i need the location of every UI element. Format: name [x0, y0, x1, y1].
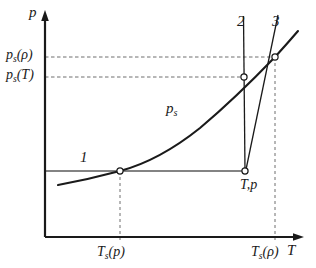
y-axis-arrow-icon — [41, 10, 49, 21]
point-marker-1 — [117, 168, 123, 174]
x-tick-label-Ts-p: Ts(p) — [97, 245, 125, 259]
point-marker-3 — [272, 54, 278, 60]
point-label-1: 1 — [80, 150, 88, 165]
line-label-2: 2 — [237, 14, 245, 29]
point-marker-state-Tp — [242, 168, 248, 174]
x-axis-arrow-icon — [293, 233, 304, 241]
diagram-canvas — [0, 0, 316, 268]
x-axis-label: T — [287, 243, 295, 258]
phase-diagram-figure: p T ps(ρ) ps(T) Ts(p) Ts(ρ) ps 1 2 3 T,p — [0, 0, 316, 268]
y-tick-label-ps-rho: ps(ρ) — [6, 48, 33, 62]
saturation-curve — [58, 31, 298, 185]
y-axis-label: p — [29, 5, 37, 20]
point-marker-2 — [241, 74, 247, 80]
state-point-label: T,p — [240, 178, 257, 192]
x-tick-label-Ts-rho: Ts(ρ) — [251, 245, 279, 259]
curve-label-ps: ps — [166, 101, 177, 116]
y-tick-label-ps-T: ps(T) — [6, 68, 34, 82]
isochore-line-3 — [246, 15, 279, 172]
line-label-3: 3 — [272, 14, 280, 29]
isotherm-line-2 — [244, 16, 246, 171]
